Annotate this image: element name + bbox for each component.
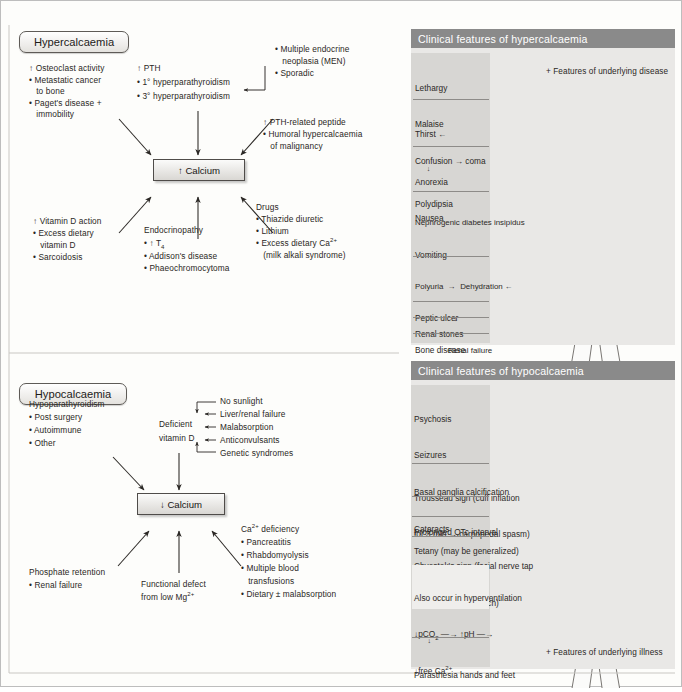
hypercalcaemia-title-pill: Hypercalcaemia: [19, 31, 129, 53]
hyper-cause-endocrinopathy-item-2: • Phaeochromocytoma: [144, 263, 230, 275]
hyper-cause-osteoclast-item-1: to bone: [29, 86, 65, 98]
hyper-cause-men-item-1: neoplasia (MEN): [275, 56, 346, 68]
hypo-cause-vitd-item-2: Malabsorption: [220, 422, 273, 434]
hyper-cause-drugs-item-0: • Thiazide diuretic: [256, 214, 323, 226]
hyper-feature-3-0: Nephrogenic diabetes insipidus: [415, 217, 491, 228]
hypo-cause-vitd-item-4: Genetic syndromes: [220, 448, 293, 460]
hypo-cause-cadef-item-4: • Dietary ± malabsorption: [241, 589, 336, 601]
hyper-cause-pth-item-1: • 3° hyperparathyroidism: [137, 91, 230, 103]
hyper-cause-vitd-item-0: • Excess dietary: [33, 228, 94, 240]
hyper-feature-0-0: Lethargy: [415, 82, 495, 94]
hyper-feature-divider-5: [413, 317, 489, 318]
hyper-feature-divider-6: [413, 333, 489, 334]
hyper-men-connector: [244, 66, 265, 90]
hypocalcaemia-central-label: ↓ Calcium: [160, 499, 202, 510]
hyper-cause-drugs-item-1: • Lithium: [256, 226, 289, 238]
hypo-vitd-connectors: [197, 402, 216, 452]
hypo-feature-divider-1: [412, 496, 489, 497]
hypo-cause-cadef-heading: Ca2+ deficiency: [241, 524, 299, 536]
hypo-cause-cadef-item-2: • Multiple blood: [241, 563, 299, 575]
hypo-feature-group-6: ↓ Parasthesia hands and feet: [414, 611, 515, 692]
hypocalcaemia-panel-header: Clinical features of hypocalcaemia: [411, 361, 675, 380]
hypo-cause-magnesium-line2: from low Mg2+: [141, 592, 194, 604]
hyper-cause-men-item-2: • Sporadic: [275, 68, 314, 80]
hyper-cause-drugs-item-3: (milk alkali syndrome): [256, 250, 346, 262]
hypocalcaemia-panel-header-text: Clinical features of hypocalcaemia: [418, 365, 584, 377]
hypo-cause-phosphate-heading: Phosphate retention: [29, 567, 105, 579]
hyper-cause-osteoclast-item-3: immobility: [29, 109, 74, 121]
hyper-feature-6-0: Bone disease: [415, 344, 465, 356]
hyper-cause-pthrp-item-0: • Humoral hypercalcaemia: [263, 129, 362, 141]
hyper-feature-1-0: Thirst ←: [415, 128, 453, 140]
hyper-cause-pth-item-0: • 1° hyperparathyroidism: [137, 77, 230, 89]
hypo-cause-hypopara-heading: Hypoparathyroidism: [29, 399, 105, 411]
hypo-cause-vitd-heading-line2: vitamin D: [159, 433, 194, 445]
hyper-cause-endocrinopathy-heading: Endocrinopathy: [144, 225, 203, 237]
hyper-feature-divider-0: [413, 99, 489, 100]
hyper-cause-vitd-item-2: • Sarcoidosis: [33, 252, 82, 264]
hypo-cause-vitd-item-3: Anticonvulsants: [220, 435, 280, 447]
hyper-cause-drugs-item-2: • Excess dietary Ca2+: [256, 238, 337, 250]
hypo-feature-divider-3: [412, 536, 489, 537]
hypo-cause-hypopara-item-1: • Autoimmune: [29, 425, 82, 437]
hyper-cause-pthrp-item-1: of malignancy: [263, 141, 323, 153]
hypo-underlying-illness-note: + Features of underlying illness: [546, 647, 663, 659]
hypercalcaemia-panel-header-text: Clinical features of hypercalcaemia: [418, 33, 588, 45]
hyper-feature-divider-1: [413, 146, 489, 147]
hypercalcaemia-title-text: Hypercalcaemia: [34, 36, 114, 48]
hypo-cause-hypopara-item-2: • Other: [29, 438, 56, 450]
hypo-cause-vitd-item-1: Liver/renal failure: [220, 409, 286, 421]
hyper-cause-men-item-0: • Multiple endocrine: [275, 44, 350, 56]
hypo-feature-divider-6: [412, 637, 489, 638]
hypo-cause-cadef-item-3: transfusions: [241, 576, 294, 588]
hyper-underlying-disease-note: + Features of underlying disease: [546, 66, 668, 78]
hyper-cause-vitd-item-1: vitamin D: [33, 240, 76, 252]
hypo-feature-6-1: Parasthesia hands and feet: [414, 669, 515, 681]
hypocalcaemia-central-box: ↓ Calcium: [137, 493, 225, 515]
hypo-feature-5-0: Also occur in hyperventilation: [414, 592, 522, 604]
hypo-cause-cadef-item-0: • Pancreatitis: [241, 537, 291, 549]
hyper-feature-2-0: Anorexia: [415, 176, 448, 188]
hyper-cause-endocrinopathy-item-0: • ↑ T4: [144, 238, 165, 250]
hypo-cause-vitd-item-0: No sunlight: [220, 396, 263, 408]
hyper-cause-osteoclast-item-2: • Paget's disease +: [29, 98, 102, 110]
hypercalcaemia-panel-header: Clinical features of hypercalcaemia: [411, 29, 675, 48]
hyper-cause-osteoclast-item-0: • Metastatic cancer: [29, 75, 101, 87]
hypo-cause-cadef-item-1: • Rhabdomyolysis: [241, 550, 309, 562]
hyper-cause-vitd-heading: ↑ Vitamin D action: [33, 216, 102, 228]
hypo-cause-magnesium-line1: Functional defect: [141, 579, 206, 591]
hypo-cause-vitd-heading-line1: Deficient: [159, 419, 192, 431]
hyper-cause-pth-heading: ↑ PTH: [137, 63, 161, 75]
hypo-feature-0-1: Seizures: [414, 449, 533, 461]
hyper-cause-pthrp-heading: ↑ PTH-related peptide: [263, 117, 346, 129]
hyper-cause-endocrinopathy-item-1: • Addison's disease: [144, 251, 217, 263]
hypo-cause-phosphate-item-0: • Renal failure: [29, 580, 82, 592]
hyper-cause-drugs-heading: Drugs: [256, 202, 279, 214]
hypo-feature-0-0: Psychosis: [414, 413, 533, 425]
hyper-cause-osteoclast-heading: ↑ Osteoclast activity: [29, 63, 104, 75]
hypo-feature-divider-0: [412, 463, 489, 464]
hypercalcaemia-central-box: ↑ Calcium: [153, 159, 245, 181]
hypo-feature-divider-2: [412, 516, 489, 517]
hypo-cause-hypopara-item-0: • Post surgery: [29, 412, 82, 424]
hyper-feature-divider-3: [413, 256, 489, 257]
hyper-feature-divider-4: [413, 301, 489, 302]
hyper-feature-divider-2: [413, 191, 489, 192]
hypercalcaemia-central-label: ↑ Calcium: [178, 165, 220, 176]
